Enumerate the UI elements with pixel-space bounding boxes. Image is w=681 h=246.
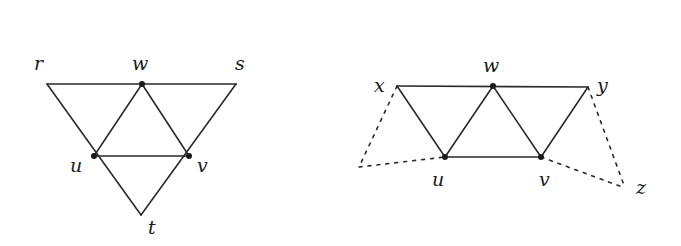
edge-w-u	[445, 86, 493, 157]
vertex-label-z: z	[635, 176, 647, 198]
vertex-label-w: w	[132, 52, 148, 74]
edge-w-u	[94, 84, 142, 156]
dashed-edge-y-z	[588, 87, 625, 188]
vertex-label-u: u	[432, 168, 444, 190]
vertex-label-x: x	[374, 74, 385, 96]
edge-y-v	[541, 87, 588, 157]
edge-w-v	[142, 84, 189, 156]
edge-w-v	[493, 86, 541, 157]
vertex-label-v: v	[197, 154, 208, 176]
right-graph: xwyuvz	[359, 54, 647, 198]
vertex-w	[490, 83, 496, 89]
dashed-edge-x-p	[359, 86, 397, 167]
dashed-edge-p-u	[359, 157, 445, 167]
vertex-label-w: w	[483, 54, 499, 76]
vertex-label-r: r	[34, 52, 45, 74]
vertex-v	[186, 153, 192, 159]
vertex-label-t: t	[148, 216, 156, 238]
graph-canvas: rwsuvt xwyuvz	[0, 0, 681, 246]
edge-x-u	[397, 86, 445, 157]
dashed-edge-v-z	[541, 157, 625, 188]
edge-r-t	[47, 84, 141, 215]
vertex-u	[442, 154, 448, 160]
vertex-label-v: v	[539, 168, 550, 190]
left-graph: rwsuvt	[34, 52, 245, 238]
vertex-label-s: s	[235, 52, 245, 74]
vertex-label-y: y	[596, 74, 608, 96]
vertex-label-u: u	[70, 154, 82, 176]
vertex-v	[538, 154, 544, 160]
vertex-u	[91, 153, 97, 159]
vertex-w	[139, 81, 145, 87]
